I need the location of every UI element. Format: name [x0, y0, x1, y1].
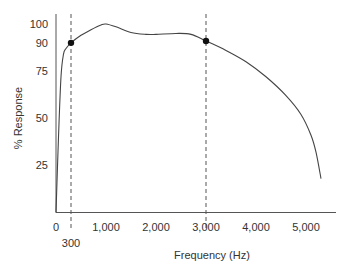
reference-lines [71, 14, 206, 228]
x-tick-label: 2,000 [142, 221, 170, 233]
y-tick-label: 75 [36, 65, 48, 77]
x-tick-labels: 01,0002,0003,0004,0005,000 [53, 221, 320, 233]
x-axis-label: Frequency (Hz) [174, 249, 250, 261]
x-tick-label: 5,000 [292, 221, 320, 233]
data-point-marker [203, 38, 209, 44]
y-tick-label: 100 [30, 18, 48, 30]
data-point-marker [68, 40, 74, 46]
y-tick-labels: 25507590100 [30, 18, 48, 171]
response-curve [56, 24, 321, 213]
x-tick-300-label: 300 [62, 237, 80, 249]
y-tick-label: 25 [36, 159, 48, 171]
y-axis-label: % Response [12, 87, 24, 149]
data-markers [68, 38, 209, 46]
x-tick-label: 0 [53, 221, 59, 233]
y-tick-label: 50 [36, 112, 48, 124]
x-tick-label: 1,000 [92, 221, 120, 233]
x-tick-label: 3,000 [192, 221, 220, 233]
y-tick-label: 90 [36, 37, 48, 49]
frequency-response-chart: 25507590100 01,0002,0003,0004,0005,000 3… [0, 0, 348, 273]
x-tick-label: 4,000 [242, 221, 270, 233]
